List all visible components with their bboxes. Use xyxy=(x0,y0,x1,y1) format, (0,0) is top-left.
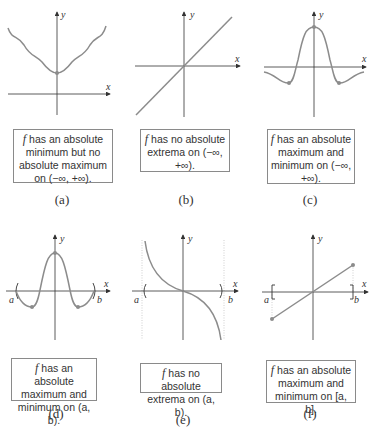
svg-text:x: x xyxy=(232,278,238,289)
svg-text:x: x xyxy=(103,278,109,289)
svg-text:a: a xyxy=(134,294,139,305)
caption-d-box: f has an absolute maximum and minimum on… xyxy=(11,358,97,401)
panel-d: y x a b f has an absolute maximum and mi… xyxy=(0,220,124,423)
caption-f: f has an absolute maximum and minimum on… xyxy=(266,360,356,403)
svg-text:b: b xyxy=(97,294,102,305)
svg-text:a: a xyxy=(264,294,269,305)
graph-c: y x xyxy=(248,0,372,125)
label-e: (e) xyxy=(121,412,245,428)
caption-b: f has no absolute extrema on (−∞, +∞). xyxy=(140,129,230,172)
label-c: (c) xyxy=(248,192,372,208)
svg-text:x: x xyxy=(105,81,111,92)
graph-e: y x a b xyxy=(124,220,248,340)
caption-a: f has an absolute minimum but no absolut… xyxy=(13,129,113,183)
svg-text:y: y xyxy=(318,9,324,20)
panel-c: y x f has an absolute maximum and minimu… xyxy=(248,0,372,212)
panel-f: y x a b f has an absolute maximum and mi… xyxy=(248,220,372,423)
caption-d xyxy=(11,242,15,248)
label-f: (f) xyxy=(248,406,372,422)
label-a: (a) xyxy=(0,192,124,208)
svg-text:y: y xyxy=(59,233,65,244)
min-point-right xyxy=(76,305,80,309)
svg-text:a: a xyxy=(9,294,14,305)
graph-b: y x xyxy=(124,0,248,125)
svg-text:y: y xyxy=(317,233,323,244)
graph-d: y x a b xyxy=(0,220,124,340)
svg-text:y: y xyxy=(189,9,195,20)
graph-f: y x a b xyxy=(248,220,372,340)
min-point xyxy=(55,71,59,75)
svg-text:x: x xyxy=(361,278,367,289)
svg-text:x: x xyxy=(234,53,240,64)
label-d: (d) xyxy=(0,406,118,422)
graph-a: y x xyxy=(0,0,124,125)
panel-e: y x a b f has no absolute extrema on (a,… xyxy=(124,220,248,423)
caption-e: f has no absolute extrema on (a, b). xyxy=(140,363,222,393)
min-point-left xyxy=(287,81,291,85)
label-b: (b) xyxy=(124,192,248,208)
max-endpoint xyxy=(351,263,355,267)
svg-text:y: y xyxy=(187,233,193,244)
max-point xyxy=(312,25,316,29)
svg-text:b: b xyxy=(228,294,233,305)
max-point xyxy=(53,251,57,255)
svg-text:x: x xyxy=(361,53,367,64)
panel-b: y x f has no absolute extrema on (−∞, +∞… xyxy=(124,0,248,212)
svg-text:y: y xyxy=(60,9,66,20)
panel-a: y x f has an absolute minimum but no abs… xyxy=(0,0,124,212)
min-point-right xyxy=(337,81,341,85)
svg-text:b: b xyxy=(354,294,359,305)
min-point-left xyxy=(30,305,34,309)
caption-c: f has an absolute maximum and minimum on… xyxy=(267,129,355,184)
min-endpoint xyxy=(270,317,274,321)
